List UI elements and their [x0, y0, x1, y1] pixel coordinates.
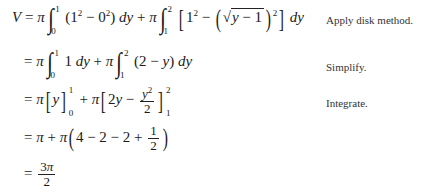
step-1-note: Apply disk method. — [326, 14, 413, 26]
step-2-equation: = π∫101 dy + π∫21(2 − y) dy — [24, 48, 192, 78]
step-3-equation: = π[y]10 + π[2y − y22]21 — [24, 86, 173, 116]
step-1-equation: V = π∫10(12 − 02) dy + π∫21[12 − (√y − 1… — [12, 4, 304, 34]
step-4-equation: = π + π(4 − 2 − 2 + 12) — [24, 124, 169, 152]
step-3-note: Integrate. — [326, 97, 368, 109]
step-2-note: Simplify. — [326, 61, 367, 73]
step-5-equation: = 3π2 — [24, 160, 57, 188]
